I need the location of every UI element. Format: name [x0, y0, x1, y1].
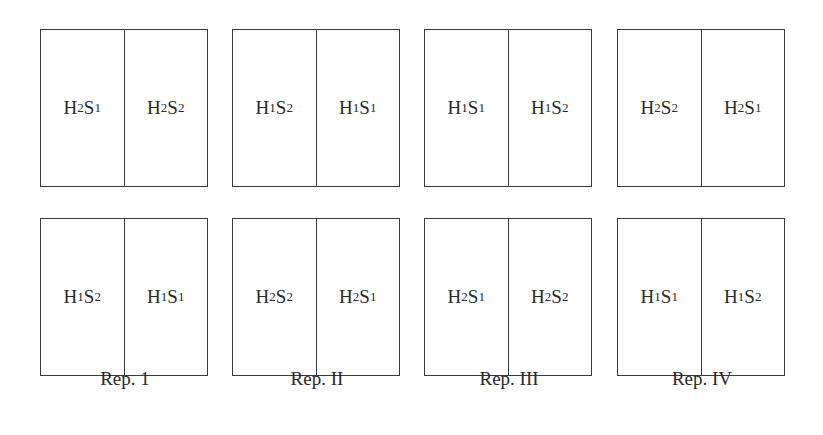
subplot-right: H2S2: [508, 219, 592, 375]
treatment-h: H: [448, 286, 462, 308]
subplot-right: H2S2: [124, 30, 208, 186]
treatment-h: H: [724, 97, 738, 119]
subplot-left: H1S2: [41, 219, 124, 375]
subplot-left: H2S2: [618, 30, 701, 186]
treatment-h: H: [147, 286, 161, 308]
subplot-right: H2S1: [316, 219, 400, 375]
subplot-left: H1S1: [618, 219, 701, 375]
treatment-s: S: [468, 286, 479, 308]
treatment-s: S: [167, 286, 178, 308]
treatment-h: H: [339, 97, 353, 119]
treatment-s: S: [661, 97, 672, 119]
treatment-h: H: [531, 286, 545, 308]
main-plot: H2S2H2S1: [232, 218, 400, 376]
treatment-s: S: [744, 286, 755, 308]
treatment-s: S: [359, 97, 370, 119]
main-plot: H2S1H2S2: [40, 29, 208, 187]
subplot-left: H2S1: [425, 219, 508, 375]
treatment-h: H: [448, 97, 462, 119]
subplot-left: H1S2: [233, 30, 316, 186]
subplot-right: H1S1: [316, 30, 400, 186]
treatment-s: S: [661, 286, 672, 308]
main-plot: H2S2H2S1: [617, 29, 785, 187]
main-plot: H2S1H2S2: [424, 218, 592, 376]
subplot-left: H2S1: [41, 30, 124, 186]
treatment-s: S: [84, 286, 95, 308]
treatment-s: S: [84, 97, 95, 119]
treatment-s: S: [551, 286, 562, 308]
replication-label: Rep. III: [424, 368, 594, 390]
treatment-h: H: [256, 97, 270, 119]
treatment-s: S: [276, 286, 287, 308]
main-plot: H1S2H1S1: [232, 29, 400, 187]
treatment-s: S: [359, 286, 370, 308]
main-plot: H1S1H1S2: [617, 218, 785, 376]
subplot-right: H2S1: [701, 30, 785, 186]
subplot-right: H1S2: [701, 219, 785, 375]
treatment-h: H: [256, 286, 270, 308]
treatment-s: S: [744, 97, 755, 119]
subplot-left: H1S1: [425, 30, 508, 186]
treatment-s: S: [551, 97, 562, 119]
treatment-h: H: [339, 286, 353, 308]
subplot-right: H1S1: [124, 219, 208, 375]
treatment-s: S: [468, 97, 479, 119]
treatment-h: H: [64, 286, 78, 308]
treatment-s: S: [167, 97, 178, 119]
treatment-h: H: [64, 97, 78, 119]
main-plot: H1S1H1S2: [424, 29, 592, 187]
treatment-h: H: [531, 97, 545, 119]
treatment-h: H: [641, 286, 655, 308]
treatment-h: H: [724, 286, 738, 308]
treatment-h: H: [147, 97, 161, 119]
replication-label: Rep. II: [232, 368, 402, 390]
replication-label: Rep. IV: [617, 368, 787, 390]
main-plot: H1S2H1S1: [40, 218, 208, 376]
subplot-right: H1S2: [508, 30, 592, 186]
subplot-left: H2S2: [233, 219, 316, 375]
treatment-s: S: [276, 97, 287, 119]
treatment-h: H: [641, 97, 655, 119]
replication-label: Rep. 1: [40, 368, 210, 390]
